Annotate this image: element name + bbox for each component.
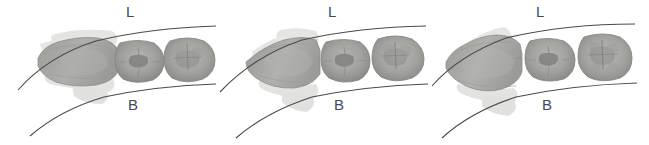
lingual-label: L xyxy=(328,4,337,19)
panel-1-graphic xyxy=(0,0,216,145)
buccal-arch-line xyxy=(30,84,216,136)
buccal-label: B xyxy=(542,97,553,112)
tooth-molar-second xyxy=(164,38,215,82)
panel-3-graphic xyxy=(432,0,649,145)
buccal-label: B xyxy=(334,97,345,112)
tooth-molar-second xyxy=(372,36,424,81)
tooth-molar-second xyxy=(578,34,632,81)
buccal-label: B xyxy=(128,97,139,112)
tooth-molar-first xyxy=(115,41,164,83)
tooth-molar-first xyxy=(321,40,370,83)
specimen-panel-2: L B xyxy=(216,0,432,145)
specimen-panel-1: L B xyxy=(0,0,216,145)
tooth-premolar-left xyxy=(246,38,320,89)
buccal-arch-line xyxy=(236,84,428,138)
lingual-label: L xyxy=(536,4,545,19)
dental-arch-figure: L B xyxy=(0,0,649,145)
specimen-panel-3: L B xyxy=(432,0,649,145)
panel-2-graphic xyxy=(216,0,432,145)
lingual-label: L xyxy=(126,4,135,19)
tooth-molar-first xyxy=(525,39,575,82)
